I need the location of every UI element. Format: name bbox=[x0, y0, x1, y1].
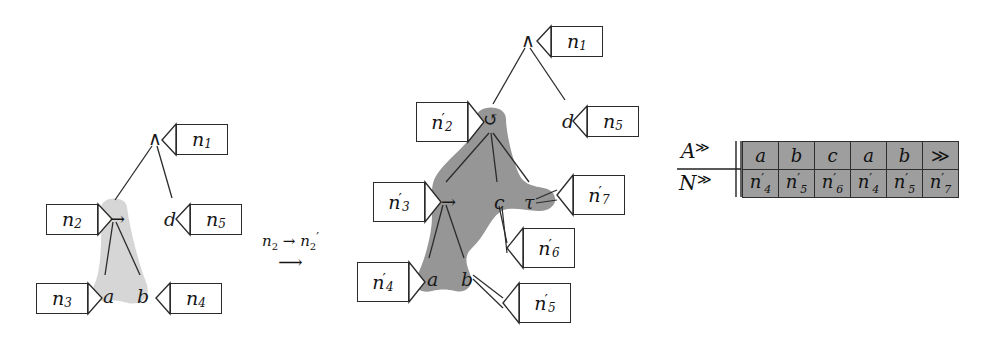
transition-expression: n2 → n2′ bbox=[262, 232, 319, 250]
callout-n4-prime-label: n′4 bbox=[372, 272, 393, 293]
callout-n3-left[interactable]: n3 bbox=[36, 283, 88, 314]
right-tree-edges bbox=[429, 48, 565, 258]
callout-n5-prime[interactable]: n′5 bbox=[519, 283, 571, 323]
callout-n4-left-label: n4 bbox=[186, 289, 206, 309]
right-node-c: c bbox=[494, 193, 505, 212]
table-cell-a-4: b bbox=[887, 142, 923, 170]
callout-n1-left[interactable]: n1 bbox=[176, 124, 228, 155]
table-cell-a-2: c bbox=[815, 142, 851, 170]
left-node-b: b bbox=[137, 287, 149, 306]
callout-n2-left-label: n2 bbox=[62, 210, 82, 230]
right-node-loop: ↺ bbox=[483, 110, 499, 129]
callout-n5-left-label: n5 bbox=[206, 210, 226, 230]
left-node-root: ∧ bbox=[148, 129, 162, 148]
right-node-d: d bbox=[562, 112, 574, 131]
callout-n4-prime[interactable]: n′4 bbox=[357, 262, 409, 302]
table-cell-n-3: n′4 bbox=[851, 170, 887, 198]
callout-n2-prime-label: n′2 bbox=[431, 112, 452, 133]
left-node-a: a bbox=[103, 287, 114, 306]
callout-n3-prime-label: n′3 bbox=[388, 192, 409, 213]
table-cell-n-0: n′4 bbox=[743, 170, 779, 198]
callout-n6-prime-label: n′6 bbox=[538, 238, 559, 259]
right-node-a: a bbox=[427, 270, 438, 289]
callout-n2-prime[interactable]: n′2 bbox=[416, 102, 468, 142]
callout-n1-right-label: n1 bbox=[567, 32, 587, 52]
table-row-header-N: N≫ bbox=[679, 172, 712, 193]
callout-n5-prime-label: n′5 bbox=[534, 293, 555, 314]
callout-n2-left[interactable]: n2 bbox=[46, 204, 98, 235]
callout-n5-right[interactable]: n5 bbox=[587, 106, 639, 137]
right-node-tau: τ bbox=[524, 193, 535, 212]
action-node-table: a b c a b ≫ n′4 n′5 n′6 n′4 n′5 n′7 bbox=[742, 141, 959, 198]
table-cell-a-5: ≫ bbox=[923, 142, 959, 170]
callout-n4-left[interactable]: n4 bbox=[170, 283, 222, 314]
table-row-nodes: n′4 n′5 n′6 n′4 n′5 n′7 bbox=[743, 170, 959, 198]
callout-n3-prime[interactable]: n′3 bbox=[373, 182, 425, 222]
table-cell-a-0: a bbox=[743, 142, 779, 170]
callout-n1-left-label: n1 bbox=[192, 130, 212, 150]
right-node-b: b bbox=[461, 270, 473, 289]
callout-n3-left-label: n3 bbox=[52, 289, 72, 309]
right-node-root: ∧ bbox=[521, 31, 535, 50]
callout-n7-prime-label: n′7 bbox=[588, 185, 609, 206]
callout-n5-right-label: n5 bbox=[603, 112, 623, 132]
transition-label: n2 → n2′ ⟶ bbox=[262, 232, 319, 271]
table-cell-n-5: n′7 bbox=[923, 170, 959, 198]
left-node-implication: → bbox=[110, 210, 125, 228]
right-node-implication: → bbox=[441, 193, 456, 211]
table-cell-a-1: b bbox=[779, 142, 815, 170]
left-node-d: d bbox=[164, 210, 176, 229]
table-row-header-A: A≫ bbox=[681, 140, 710, 161]
table-cell-n-1: n′5 bbox=[779, 170, 815, 198]
callout-n7-prime[interactable]: n′7 bbox=[573, 175, 625, 215]
table-row-actions: a b c a b ≫ bbox=[743, 142, 959, 170]
table-cell-a-3: a bbox=[851, 142, 887, 170]
transition-long-arrow: ⟶ bbox=[262, 254, 319, 272]
table-cell-n-2: n′6 bbox=[815, 170, 851, 198]
table-cell-n-4: n′5 bbox=[887, 170, 923, 198]
callout-n1-right[interactable]: n1 bbox=[551, 26, 603, 57]
callout-n5-left[interactable]: n5 bbox=[190, 204, 242, 235]
callout-n6-prime[interactable]: n′6 bbox=[523, 228, 575, 268]
figure-canvas: ∧ → d a b n1 n2 n5 n3 n4 n2 → n2′ ⟶ ∧ ↺ … bbox=[0, 0, 988, 339]
